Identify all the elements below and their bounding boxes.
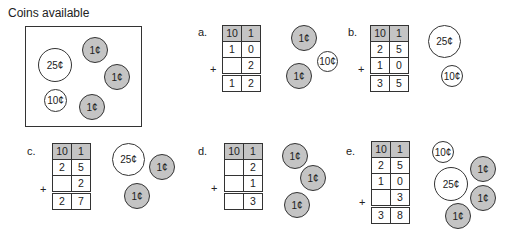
sum-cell: 3: [372, 207, 391, 224]
ones-header: 1: [391, 142, 410, 158]
problem-a-table: 101 10 2 12: [222, 25, 261, 92]
sum-cell: 3: [371, 75, 390, 92]
cell: [372, 190, 391, 207]
sum-cell: [225, 193, 244, 210]
sum-cell: 5: [390, 75, 409, 92]
problem-d-label: d.: [198, 145, 207, 157]
tens-header: 10: [53, 144, 72, 160]
cell: 2: [372, 158, 391, 174]
ones-header: 1: [390, 26, 409, 42]
cell: 5: [391, 158, 410, 174]
penny-coin: 1¢: [291, 25, 317, 51]
cell: [53, 176, 72, 193]
problem-a-label: a.: [198, 26, 207, 38]
penny-coin: 1¢: [104, 64, 130, 90]
coins-available-box: 25¢ 1¢ 1¢ 10¢ 1¢: [25, 26, 142, 127]
sum-cell: 2: [242, 75, 261, 92]
penny-coin: 1¢: [82, 37, 108, 63]
sum-cell: 7: [72, 193, 91, 210]
cell: 2: [53, 160, 72, 176]
penny-coin: 1¢: [149, 154, 175, 180]
ones-header: 1: [72, 144, 91, 160]
cell: 5: [72, 160, 91, 176]
sum-cell: 1: [223, 75, 242, 92]
coins-available-title: Coins available: [8, 6, 89, 20]
plus-sign: +: [40, 183, 46, 195]
cell: 2: [244, 160, 263, 176]
cell: [223, 58, 242, 75]
sum-cell: 3: [244, 193, 263, 210]
plus-sign: +: [359, 196, 365, 208]
dime-coin: 10¢: [432, 141, 454, 163]
cell: 1: [372, 174, 391, 190]
cell: 5: [390, 42, 409, 58]
problem-c-table: 101 25 2 27: [52, 143, 91, 210]
tens-header: 10: [223, 26, 242, 42]
tens-header: 10: [225, 144, 244, 160]
dime-coin: 10¢: [44, 89, 67, 112]
problem-b-label: b.: [348, 26, 357, 38]
quarter-coin: 25¢: [112, 143, 145, 176]
cell: 1: [223, 42, 242, 58]
ones-header: 1: [242, 26, 261, 42]
cell: 1: [244, 176, 263, 193]
penny-coin: 1¢: [284, 192, 310, 218]
plus-sign: +: [210, 63, 216, 75]
sum-cell: 2: [53, 193, 72, 210]
dime-coin: 10¢: [441, 65, 463, 87]
problem-c-label: c.: [27, 145, 36, 157]
cell: 0: [390, 58, 409, 75]
penny-coin: 1¢: [124, 183, 150, 209]
plus-sign: +: [211, 182, 217, 194]
cell: 3: [391, 190, 410, 207]
tens-header: 10: [371, 26, 390, 42]
quarter-coin: 25¢: [428, 25, 461, 58]
quarter-coin: 25¢: [38, 48, 72, 82]
cell: 0: [242, 42, 261, 58]
cell: 0: [391, 174, 410, 190]
cell: 1: [371, 58, 390, 75]
cell: 2: [371, 42, 390, 58]
sum-cell: 8: [391, 207, 410, 224]
ones-header: 1: [244, 144, 263, 160]
penny-coin: 1¢: [470, 156, 496, 182]
problem-e-label: e.: [346, 145, 355, 157]
penny-coin: 1¢: [79, 94, 105, 120]
penny-coin: 1¢: [445, 203, 471, 229]
cell: [225, 176, 244, 193]
problem-d-table: 101 2 1 3: [224, 143, 263, 210]
penny-coin: 1¢: [470, 185, 496, 211]
plus-sign: +: [358, 63, 364, 75]
cell: [225, 160, 244, 176]
tens-header: 10: [372, 142, 391, 158]
cell: 2: [72, 176, 91, 193]
dime-coin: 10¢: [317, 51, 338, 72]
problem-e-table: 101 25 10 3 38: [371, 141, 410, 224]
penny-coin: 1¢: [300, 165, 326, 191]
problem-b-table: 101 25 10 35: [370, 25, 409, 92]
cell: 2: [242, 58, 261, 75]
quarter-coin: 25¢: [434, 167, 468, 201]
penny-coin: 1¢: [282, 143, 308, 169]
penny-coin: 1¢: [286, 63, 312, 89]
